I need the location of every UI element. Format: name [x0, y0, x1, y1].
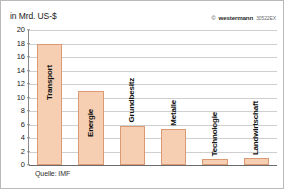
bar-slot: Metalle — [161, 30, 187, 165]
gridline — [29, 165, 277, 166]
source-note: Quelle: IMF — [35, 170, 70, 177]
bar[interactable] — [202, 159, 228, 165]
y-tick-label: 14 — [17, 67, 27, 75]
bar-slot: Landwirtschaft — [244, 30, 270, 165]
bar-label: Metalle — [170, 100, 178, 126]
y-tick: 8 — [1, 107, 27, 115]
copyright-icon: © — [211, 15, 215, 21]
bar[interactable] — [120, 126, 146, 165]
bar-slot: Energie — [78, 30, 104, 165]
plot-area: TransportEnergieGrundbesitzMetalleTechno… — [29, 30, 277, 165]
bar-label: Grundbesitz — [128, 78, 136, 122]
bar-label: Transport — [46, 65, 54, 100]
publisher-credit: © westermann 30522EX — [211, 14, 276, 21]
y-tick-label: 10 — [17, 94, 27, 102]
bar[interactable] — [161, 129, 187, 165]
y-tick: 16 — [1, 53, 27, 61]
y-tick-label: 20 — [17, 26, 27, 34]
bar-slot: Technologie — [202, 30, 228, 165]
y-tick-label: 12 — [17, 80, 27, 88]
y-tick: 4 — [1, 134, 27, 142]
y-tick: 12 — [1, 80, 27, 88]
bar-series: TransportEnergieGrundbesitzMetalleTechno… — [29, 30, 277, 165]
publisher-name: westermann — [219, 14, 254, 21]
bar-slot: Grundbesitz — [120, 30, 146, 165]
y-axis-unit-label: in Mrd. US-$ — [10, 11, 57, 21]
bar-label: Technologie — [211, 112, 219, 156]
y-tick: 0 — [1, 161, 27, 169]
y-tick: 20 — [1, 26, 27, 34]
y-tick-label: 18 — [17, 40, 27, 48]
bar[interactable] — [37, 44, 63, 166]
bar-slot: Transport — [37, 30, 63, 165]
y-axis-ticks: 20181614121086420 — [1, 30, 28, 165]
y-tick: 2 — [1, 148, 27, 156]
y-tick: 6 — [1, 121, 27, 129]
chart-figure: in Mrd. US-$ © westermann 30522EX 201816… — [0, 0, 284, 189]
publisher-code: 30522EX — [256, 15, 276, 21]
y-tick: 18 — [1, 40, 27, 48]
y-tick: 14 — [1, 67, 27, 75]
bar-label: Landwirtschaft — [252, 101, 260, 155]
y-tick-label: 16 — [17, 53, 27, 61]
bar[interactable] — [244, 158, 270, 165]
y-tick: 10 — [1, 94, 27, 102]
bar-label: Energie — [87, 109, 95, 137]
